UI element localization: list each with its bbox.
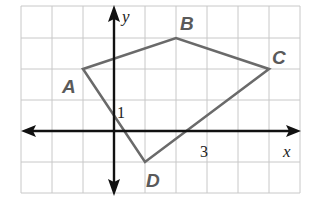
x-tick-label: 3 xyxy=(200,143,208,160)
y-tick-label: 1 xyxy=(117,104,125,121)
x-axis-label: x xyxy=(282,142,291,161)
vertex-label-d: D xyxy=(146,170,160,191)
vertex-label-a: A xyxy=(61,76,76,97)
y-axis-label: y xyxy=(120,7,130,26)
vertex-label-c: C xyxy=(272,47,286,68)
vertex-label-b: B xyxy=(180,13,194,34)
grid-lines xyxy=(21,6,300,193)
x-axis xyxy=(21,125,301,137)
coordinate-plane: y x 1 3 A B C D xyxy=(0,0,310,206)
